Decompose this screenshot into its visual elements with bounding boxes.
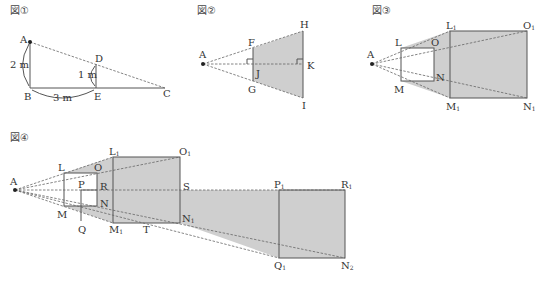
label-P: P	[78, 179, 85, 190]
right-angle-J	[247, 59, 253, 64]
label-E: E	[94, 91, 101, 102]
point-A-dot	[28, 40, 32, 44]
label-M: M	[57, 209, 67, 220]
label-L: L	[395, 37, 402, 48]
label-O1: O1	[179, 146, 191, 157]
label-R: R	[100, 181, 108, 192]
label-J: J	[255, 68, 260, 79]
label-H: H	[300, 19, 309, 30]
label-M1: M1	[109, 224, 123, 235]
square-LONM	[401, 48, 434, 81]
label-O1: O1	[523, 20, 535, 31]
label-N: N	[100, 198, 109, 209]
label-Q1: Q1	[274, 260, 286, 271]
label-A: A	[198, 49, 207, 60]
label-N: N	[436, 72, 445, 83]
label-B: B	[24, 91, 31, 102]
point-A-dot	[370, 62, 374, 66]
label-N2: N2	[341, 260, 354, 271]
label-A: A	[366, 49, 375, 60]
measure-DE: 1 m	[78, 69, 98, 80]
label-K: K	[307, 60, 315, 71]
label-I: I	[302, 100, 306, 111]
figure-4: 図④ A L O M N P R Q S T L1 O1 M1 N1	[9, 132, 354, 271]
label-O: O	[94, 162, 102, 173]
label-R1: R1	[341, 179, 352, 190]
label-M: M	[394, 84, 404, 95]
figure-3-title: 図③	[372, 5, 391, 16]
label-F: F	[248, 37, 255, 48]
label-L1: L1	[446, 20, 456, 31]
shaded-region-FHIG	[253, 31, 303, 98]
label-C: C	[163, 88, 171, 99]
figure-1: 図① A B C D E 2 m 3 m 1 m	[10, 5, 171, 103]
label-M1: M1	[446, 101, 460, 112]
figure-1-title: 図①	[10, 5, 29, 16]
label-S: S	[183, 181, 190, 192]
point-A-dot	[13, 188, 17, 192]
label-A: A	[9, 176, 18, 187]
measure-AB: 2 m	[10, 59, 30, 70]
label-A: A	[19, 34, 28, 45]
point-A-dot	[201, 62, 205, 66]
label-P1: P1	[274, 179, 285, 190]
figure-2: 図② A F G H I J K	[197, 5, 315, 111]
label-L1: L1	[109, 146, 119, 157]
far-square-fill	[279, 190, 345, 258]
label-L: L	[58, 162, 65, 173]
label-O: O	[431, 37, 439, 48]
figure-3: 図③ A L O M N L1 O1 M1 N1	[366, 5, 535, 112]
segment-AC	[30, 42, 165, 88]
measure-BE: 3 m	[53, 92, 73, 103]
label-T: T	[143, 224, 150, 235]
figure-4-title: 図④	[10, 132, 29, 143]
label-Q: Q	[78, 224, 86, 235]
figure-2-title: 図②	[197, 5, 216, 16]
label-G: G	[248, 84, 256, 95]
label-N1: N1	[523, 101, 535, 112]
label-D: D	[95, 53, 103, 64]
geometry-figures: 図① A B C D E 2 m 3 m 1 m 図② A F G H I J	[0, 0, 535, 288]
